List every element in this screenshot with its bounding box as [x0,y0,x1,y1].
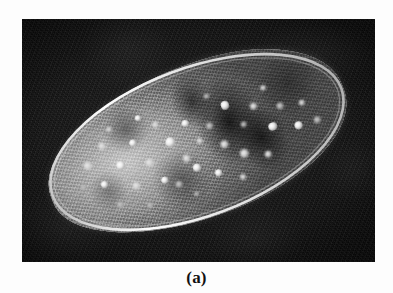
figure-panel: (a) [0,0,393,293]
micrograph-image [22,19,375,262]
figure-caption-text: (a) [186,268,206,288]
figure-caption: (a) [0,263,393,293]
